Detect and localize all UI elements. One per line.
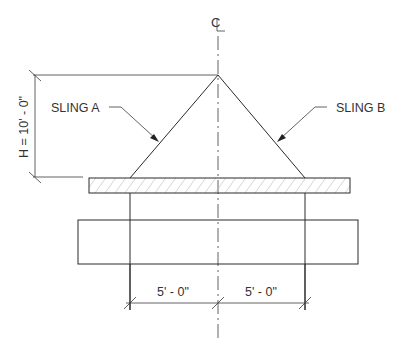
height-dimension: H = 10' - 0"	[17, 70, 218, 183]
left-span-label: 5' - 0"	[157, 285, 189, 299]
right-span-label: 5' - 0"	[245, 285, 277, 299]
lifting-plate	[80, 172, 360, 200]
height-dimension-label: H = 10' - 0"	[17, 96, 31, 158]
centerline-label: C	[211, 15, 220, 30]
span-dimension: 5' - 0" 5' - 0"	[124, 285, 311, 309]
sling-b-label: SLING B	[336, 101, 385, 115]
centerline-symbol: C	[211, 15, 225, 31]
rigging-diagram: C H = 10' - 0" SLING A SLING B	[0, 0, 401, 338]
sling-b	[218, 75, 305, 178]
sling-a-callout: SLING A	[51, 101, 159, 142]
sling-a-label: SLING A	[51, 101, 100, 115]
sling-a	[130, 75, 218, 178]
sling-b-callout: SLING B	[277, 101, 385, 142]
